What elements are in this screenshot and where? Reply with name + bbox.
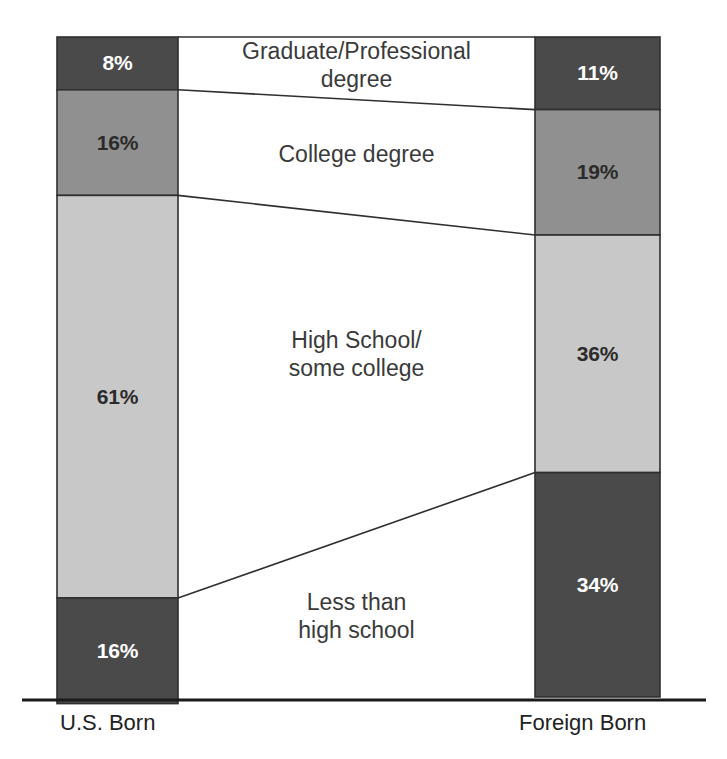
- bar-segment: [535, 37, 660, 110]
- right-bar-segments: [535, 37, 660, 697]
- stacked-bar-chart: 8%16%61%16%11%19%36%34% Graduate/Profess…: [0, 0, 727, 759]
- connector-lines: [178, 37, 535, 598]
- bar-segment: [57, 37, 178, 90]
- connector-line: [178, 473, 535, 598]
- axis-label-us-born: U.S. Born: [60, 712, 155, 734]
- axis-label-foreign-born: Foreign Born: [519, 712, 646, 734]
- left-bar-segments: [57, 37, 178, 704]
- connector-line: [178, 195, 535, 235]
- bar-segment: [535, 473, 660, 697]
- bar-segment: [57, 598, 178, 704]
- bar-segment: [535, 110, 660, 235]
- connector-line: [178, 90, 535, 110]
- chart-canvas: [0, 0, 727, 759]
- bar-segment: [57, 90, 178, 196]
- bar-segment: [535, 235, 660, 473]
- bar-segment: [57, 195, 178, 598]
